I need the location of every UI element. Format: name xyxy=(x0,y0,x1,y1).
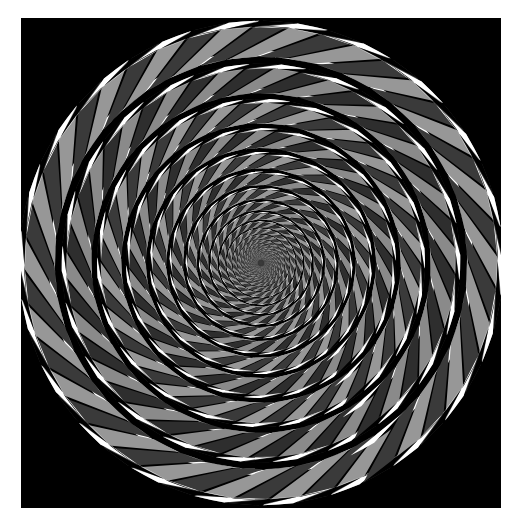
illusion-canvas xyxy=(21,18,501,508)
page-root xyxy=(0,0,530,527)
illusion-svg xyxy=(21,18,501,508)
center-haze xyxy=(222,224,301,303)
